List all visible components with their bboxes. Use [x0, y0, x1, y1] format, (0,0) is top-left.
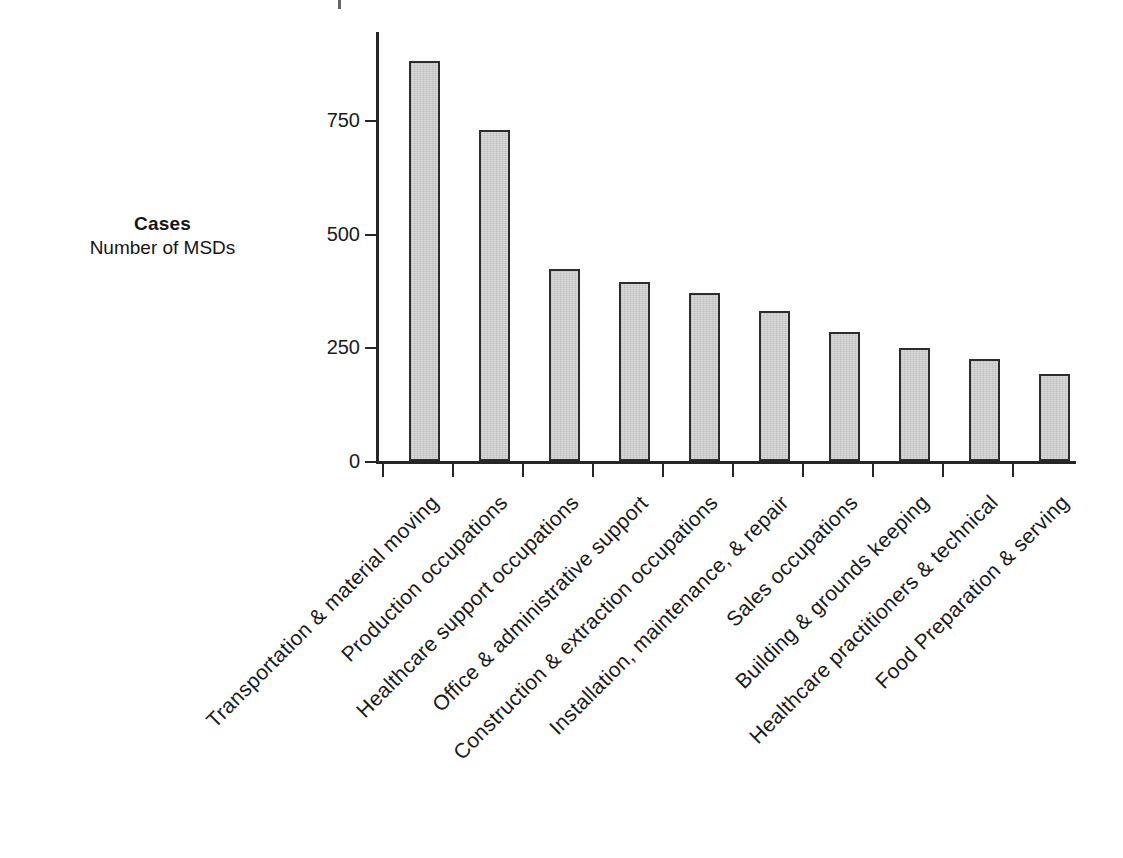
y-axis-line	[376, 32, 379, 464]
x-axis-tick-mark	[592, 464, 594, 477]
x-axis-tick-mark	[522, 464, 524, 477]
bar	[829, 332, 860, 461]
y-axis-tick-mark	[365, 461, 378, 463]
bar	[689, 293, 720, 461]
x-axis-tick-mark	[662, 464, 664, 477]
x-axis-line	[376, 461, 1076, 464]
y-axis-tick-label: 500	[302, 222, 360, 245]
bar	[899, 348, 930, 461]
y-axis-tick-mark	[365, 347, 378, 349]
x-axis-tick-mark	[1012, 464, 1014, 477]
x-axis-tick-mark	[452, 464, 454, 477]
bar	[969, 359, 1000, 461]
x-axis-category-label: Healthcare practitioners & technical	[745, 490, 1003, 748]
bar	[479, 130, 510, 461]
x-axis-tick-mark	[942, 464, 944, 477]
bar	[759, 311, 790, 461]
x-axis-tick-mark	[732, 464, 734, 477]
x-axis-tick-mark	[382, 464, 384, 477]
y-axis-tick-mark	[365, 120, 378, 122]
y-axis-tick-label: 750	[302, 109, 360, 132]
bar	[619, 282, 650, 461]
bar-chart: Cases Number of MSDs 0250500750 Transpor…	[0, 0, 1123, 858]
bar	[1039, 374, 1070, 461]
bar	[549, 269, 580, 461]
plot-area: 0250500750	[0, 0, 1123, 520]
x-axis-tick-mark	[872, 464, 874, 477]
x-axis-tick-mark	[802, 464, 804, 477]
y-axis-tick-label: 250	[302, 336, 360, 359]
bar	[409, 61, 440, 461]
x-axis-category-label: Construction & extraction occupations	[449, 491, 723, 765]
y-axis-tick-mark	[365, 234, 378, 236]
y-axis-tick-label: 0	[302, 450, 360, 473]
